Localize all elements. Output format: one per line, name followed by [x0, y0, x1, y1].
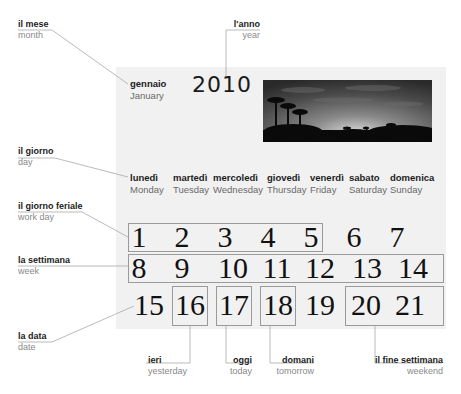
date-cell: 2 — [167, 222, 197, 252]
month-label: gennaio January — [130, 78, 166, 102]
weekday-it: giovedì — [267, 172, 307, 184]
annotation-year-it: l'anno — [214, 19, 260, 30]
year-label: 2010 — [192, 72, 252, 97]
date-cell-sunday: 21 — [395, 290, 425, 320]
date-cell: 15 — [134, 290, 164, 320]
weekday-it: mercoledì — [213, 172, 263, 184]
date-cell: 14 — [398, 253, 428, 283]
palm-sunset-photo — [263, 80, 432, 142]
date-cell-yesterday: 16 — [175, 290, 205, 320]
weekday-it: sabato — [349, 172, 387, 184]
annotation-weekend: il fine settimana weekend — [362, 355, 443, 377]
date-cell-tomorrow: 18 — [263, 290, 293, 320]
date-cell-today: 17 — [219, 290, 249, 320]
date-cell: 3 — [210, 222, 240, 252]
annotation-date: la data date — [18, 331, 47, 353]
weekday-it: domenica — [390, 172, 434, 184]
annotation-weekend-it: il fine settimana — [362, 355, 443, 366]
date-cell: 7 — [382, 222, 412, 252]
annotation-today: oggi today — [212, 355, 252, 377]
date-cell: 8 — [124, 253, 154, 283]
annotation-month-en: month — [18, 30, 49, 41]
weekday-monday: lunedì Monday — [130, 172, 164, 196]
weekday-en: Sunday — [390, 184, 434, 196]
weekday-wednesday: mercoledì Wednesday — [213, 172, 263, 196]
weekday-en: Thursday — [267, 184, 307, 196]
date-cell: 9 — [167, 253, 197, 283]
date-cell: 11 — [262, 253, 292, 283]
annotation-weekend-en: weekend — [362, 366, 443, 377]
annotation-date-it: la data — [18, 331, 47, 342]
weekday-tuesday: martedì Tuesday — [173, 172, 209, 196]
annotation-today-it: oggi — [212, 355, 252, 366]
annotation-workday: il giorno feriale work day — [18, 201, 83, 223]
annotation-date-en: date — [18, 342, 47, 353]
annotation-day-it: il giorno — [18, 146, 54, 157]
weekday-it: venerdì — [310, 172, 344, 184]
date-cell: 6 — [339, 222, 369, 252]
weekday-it: martedì — [173, 172, 209, 184]
annotation-month-it: il mese — [18, 19, 49, 30]
date-cell: 13 — [352, 253, 382, 283]
annotation-yesterday-it: ieri — [148, 355, 187, 366]
annotation-week: la settimana week — [18, 255, 70, 277]
month-en: January — [130, 90, 166, 102]
weekday-en: Saturday — [349, 184, 387, 196]
annotation-month: il mese month — [18, 19, 49, 41]
annotation-workday-en: work day — [18, 212, 83, 223]
weekday-thursday: giovedì Thursday — [267, 172, 307, 196]
annotation-tomorrow-en: tomorrow — [264, 366, 314, 377]
date-cell: 5 — [296, 222, 326, 252]
weekday-sunday: domenica Sunday — [390, 172, 434, 196]
annotation-week-en: week — [18, 266, 70, 277]
date-cell: 4 — [253, 222, 283, 252]
weekday-en: Wednesday — [213, 184, 263, 196]
date-cell: 19 — [305, 290, 335, 320]
weekday-en: Tuesday — [173, 184, 209, 196]
weekday-saturday: sabato Saturday — [349, 172, 387, 196]
annotation-year-en: year — [214, 30, 260, 41]
annotation-day: il giorno day — [18, 146, 54, 168]
weekday-en: Friday — [310, 184, 344, 196]
annotation-yesterday: ieri yesterday — [148, 355, 187, 377]
date-cell-saturday: 20 — [351, 290, 381, 320]
weekday-it: lunedì — [130, 172, 164, 184]
date-cell: 12 — [305, 253, 335, 283]
date-cell: 10 — [218, 253, 248, 283]
date-cell: 1 — [124, 222, 154, 252]
weekday-friday: venerdì Friday — [310, 172, 344, 196]
annotation-tomorrow-it: domani — [264, 355, 314, 366]
annotation-week-it: la settimana — [18, 255, 70, 266]
annotation-day-en: day — [18, 157, 54, 168]
weekday-en: Monday — [130, 184, 164, 196]
annotation-workday-it: il giorno feriale — [18, 201, 83, 212]
annotation-yesterday-en: yesterday — [148, 366, 187, 377]
month-it: gennaio — [130, 78, 166, 90]
annotation-year: l'anno year — [214, 19, 260, 41]
annotation-today-en: today — [212, 366, 252, 377]
annotation-tomorrow: domani tomorrow — [264, 355, 314, 377]
